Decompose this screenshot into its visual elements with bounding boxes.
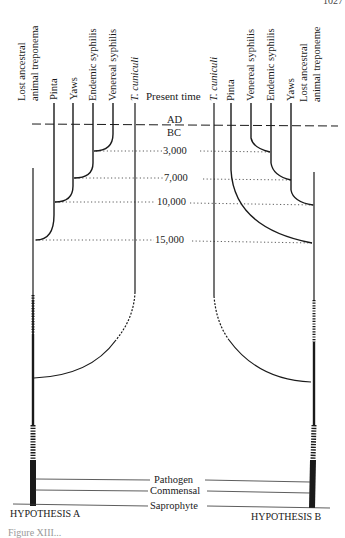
label-b-venereal-syphilis: Venereal syphilis [245, 29, 256, 101]
hypothesis-a-title: HYPOTHESIS A [10, 508, 80, 519]
present-time-label: Present time [146, 91, 201, 102]
label-a-lost-ancestral-2: animal treponema [29, 25, 40, 101]
tick-10000: 10,000 [156, 196, 187, 207]
tick-7000: 7,000 [163, 172, 189, 183]
tick-3000: 3,000 [162, 145, 188, 156]
label-b-t-cuniculi: T. cuniculi [208, 57, 219, 101]
label-b-yaws: Yaws [285, 78, 296, 101]
era-ad-label: AD [167, 114, 182, 125]
label-b-lost-ancestral-2: animal treponeme [311, 26, 322, 102]
label-b-pinta: Pinta [225, 79, 236, 101]
label-a-endemic-syphilis: Endemic syphilis [87, 28, 98, 101]
level-pathogen: Pathogen [152, 474, 195, 485]
figure-caption: Figure XIII... [8, 527, 61, 538]
era-bc-label: BC [167, 127, 181, 138]
label-a-lost-ancestral-1: Lost ancestral [16, 42, 27, 101]
level-commensal: Commensal [148, 485, 202, 496]
label-b-lost-ancestral-1: Lost ancestral [298, 43, 309, 102]
ad-bc-divider [32, 124, 338, 126]
hypothesis-b-title: HYPOTHESIS B [251, 511, 321, 522]
label-a-t-cuniculi: T. cuniculi [129, 57, 140, 101]
level-saprophyte: Saprophyte [148, 500, 200, 511]
label-a-venereal-syphilis: Venereal syphilis [107, 29, 118, 101]
label-a-yaws: Yaws [68, 77, 79, 100]
tick-15000: 15,000 [154, 234, 185, 245]
label-b-endemic-syphilis: Endemic syphilis [265, 28, 276, 101]
label-a-pinta: Pinta [48, 78, 59, 100]
